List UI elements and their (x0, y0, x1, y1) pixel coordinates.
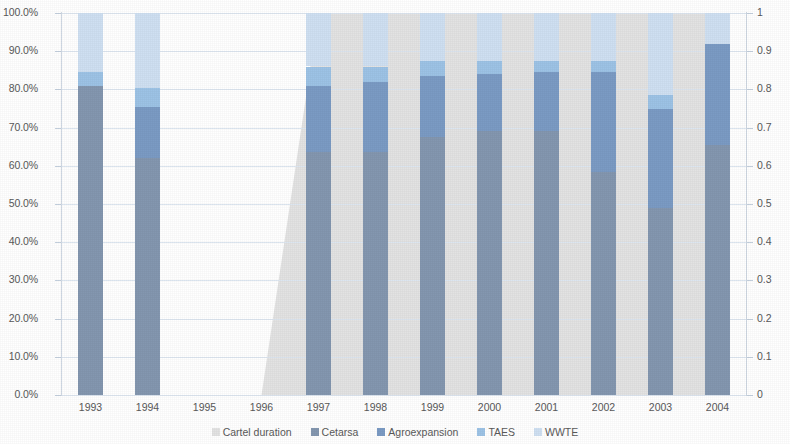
legend-swatch-icon (377, 428, 385, 436)
bar-segment-taes[interactable] (363, 67, 388, 82)
legend-item[interactable]: Cartel duration (212, 426, 292, 438)
legend-swatch-icon (311, 428, 319, 436)
y-axis-left-tick-label: 70.0% (9, 121, 38, 133)
bar-segment-cetarsa[interactable] (534, 131, 559, 395)
bar-segment-cetarsa[interactable] (477, 131, 502, 395)
bar-segment-wwte[interactable] (363, 13, 388, 66)
bar-segment-taes[interactable] (591, 61, 616, 72)
gridline (62, 242, 746, 243)
bar-segment-cetarsa[interactable] (705, 145, 730, 395)
legend-swatch-icon (534, 428, 542, 436)
legend-item[interactable]: TAES (477, 426, 515, 438)
bar-column[interactable] (306, 13, 331, 395)
y-axis-left-tick-label: 90.0% (9, 44, 38, 56)
bar-segment-cetarsa[interactable] (306, 152, 331, 395)
y-axis-right-tick (747, 204, 753, 205)
bar-column[interactable] (78, 13, 103, 395)
bar-segment-wwte[interactable] (591, 13, 616, 61)
bar-segment-wwte[interactable] (78, 13, 103, 72)
x-axis-tick-label: 1998 (347, 401, 404, 413)
y-axis-right-tick-label: 0.2 (757, 312, 772, 324)
plot-area (62, 13, 746, 395)
bar-segment-cetarsa[interactable] (648, 208, 673, 395)
y-axis-right-tick-label: 0.8 (757, 82, 772, 94)
bar-column[interactable] (420, 13, 445, 395)
bar-segment-wwte[interactable] (306, 13, 331, 66)
legend-label: TAES (488, 426, 515, 438)
legend-item[interactable]: WWTE (534, 426, 578, 438)
bar-segment-wwte[interactable] (420, 13, 445, 61)
bar-segment-wwte[interactable] (705, 13, 730, 44)
bar-segment-wwte[interactable] (135, 13, 160, 87)
gridline (62, 357, 746, 358)
bar-column[interactable] (135, 13, 160, 395)
bar-segment-taes[interactable] (306, 67, 331, 86)
bar-segment-cetarsa[interactable] (591, 172, 616, 395)
y-axis-right-tick (747, 319, 753, 320)
bar-segment-agroexpansion[interactable] (420, 76, 445, 137)
y-axis-right-tick-label: 0.7 (757, 121, 772, 133)
y-axis-right-tick-label: 1 (757, 6, 763, 18)
bar-segment-taes[interactable] (534, 61, 559, 72)
y-axis-right-tick-label: 0 (757, 388, 763, 400)
x-axis-tick-label: 1997 (290, 401, 347, 413)
y-axis-right-tick-label: 0.5 (757, 197, 772, 209)
x-axis-tick-label: 2001 (518, 401, 575, 413)
legend-item[interactable]: Cetarsa (311, 426, 359, 438)
bar-segment-cetarsa[interactable] (420, 137, 445, 395)
y-axis-right-tick (747, 89, 753, 90)
gridline (62, 128, 746, 129)
y-axis-right-tick-label: 0.3 (757, 273, 772, 285)
x-axis-tick-label: 1999 (404, 401, 461, 413)
bar-segment-agroexpansion[interactable] (534, 72, 559, 131)
y-axis-right-tick (747, 128, 753, 129)
bar-segment-wwte[interactable] (477, 13, 502, 61)
chart-container: 0.0%10.0%20.0%30.0%40.0%50.0%60.0%70.0%8… (0, 0, 790, 444)
bar-column[interactable] (591, 13, 616, 395)
bar-column[interactable] (477, 13, 502, 395)
bar-column[interactable] (705, 13, 730, 395)
gridline (62, 319, 746, 320)
y-axis-right-tick-label: 0.1 (757, 350, 772, 362)
y-axis-left-tick-label: 60.0% (9, 159, 38, 171)
bar-segment-agroexpansion[interactable] (705, 44, 730, 145)
x-axis-tick-label: 1994 (119, 401, 176, 413)
gridline (62, 280, 746, 281)
bar-segment-cetarsa[interactable] (363, 152, 388, 395)
bar-segment-agroexpansion[interactable] (591, 72, 616, 171)
y-axis-left-tick-label: 0.0% (14, 388, 38, 400)
bar-segment-agroexpansion[interactable] (648, 109, 673, 208)
bar-segment-agroexpansion[interactable] (477, 74, 502, 131)
legend-label: WWTE (545, 426, 578, 438)
x-axis-tick-label: 2000 (461, 401, 518, 413)
gridline (62, 13, 746, 14)
x-axis-tick-label: 2002 (575, 401, 632, 413)
bar-segment-taes[interactable] (420, 61, 445, 76)
bar-segment-taes[interactable] (477, 61, 502, 74)
gridline (62, 166, 746, 167)
y-axis-left-tick-label: 100.0% (3, 6, 38, 18)
bar-column[interactable] (363, 13, 388, 395)
gridline (62, 51, 746, 52)
bar-segment-cetarsa[interactable] (135, 158, 160, 395)
bar-segment-agroexpansion[interactable] (363, 82, 388, 153)
legend-label: Agroexpansion (388, 426, 458, 438)
bar-segment-agroexpansion[interactable] (306, 86, 331, 153)
bar-segment-cetarsa[interactable] (78, 86, 103, 395)
legend-item[interactable]: Agroexpansion (377, 426, 458, 438)
bar-column[interactable] (648, 13, 673, 395)
y-axis-left-tick-label: 80.0% (9, 82, 38, 94)
y-axis-left-tick-label: 30.0% (9, 273, 38, 285)
x-axis-tick-label: 2003 (632, 401, 689, 413)
bar-segment-agroexpansion[interactable] (135, 107, 160, 159)
bar-column[interactable] (534, 13, 559, 395)
y-axis-right-tick (747, 357, 753, 358)
gridline (62, 395, 746, 396)
y-axis-right-tick (747, 13, 753, 14)
bar-segment-wwte[interactable] (534, 13, 559, 61)
bar-segment-taes[interactable] (648, 95, 673, 108)
bar-segment-taes[interactable] (78, 72, 103, 85)
bar-segment-wwte[interactable] (648, 13, 673, 95)
gridline (62, 204, 746, 205)
bar-segment-taes[interactable] (135, 88, 160, 107)
